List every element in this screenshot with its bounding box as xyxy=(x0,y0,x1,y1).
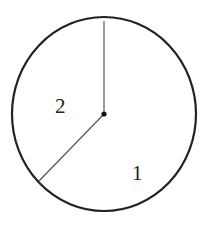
center-dot xyxy=(101,111,106,116)
sector-label-1: 1 xyxy=(132,163,143,184)
sector-diagram: 2 1 xyxy=(0,0,209,228)
sector-label-2: 2 xyxy=(55,96,66,117)
circle-diagram-graphic xyxy=(0,0,209,228)
diagonal-radius-line xyxy=(39,114,104,181)
